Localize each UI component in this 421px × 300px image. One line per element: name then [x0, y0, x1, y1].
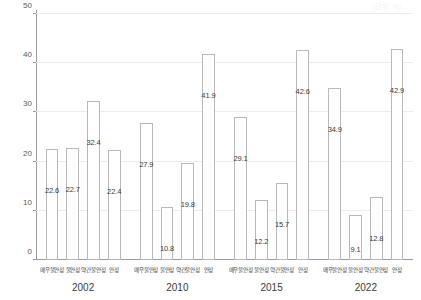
- bar: [87, 101, 100, 260]
- x-category-label: 매우불안정: [40, 266, 64, 274]
- x-category-label: 안정: [392, 266, 402, 274]
- bar-value-label: 34.9: [328, 125, 342, 134]
- unit-note: (단위: %): [373, 1, 401, 11]
- bars-layer: 22.622.732.422.427.910.819.841.929.112.2…: [36, 14, 413, 260]
- x-category-label: 불안정: [66, 266, 80, 274]
- y-axis-labels: 01020304050: [0, 14, 32, 260]
- x-category-label: 약간불안정: [364, 266, 388, 274]
- bar-value-label: 15.7: [275, 220, 289, 229]
- y-tick-label: 30: [6, 99, 32, 108]
- x-axis-category-labels: 매우불안정불안정약간불안정안정매우불안정불안정약간불안정안정매우불안정불안정약간…: [36, 266, 413, 278]
- bar-value-label: 41.9: [201, 91, 215, 100]
- bar-value-label: 22.7: [66, 185, 80, 194]
- x-group-label: 2022: [355, 282, 377, 293]
- x-category-label: 약간불안정: [270, 266, 294, 274]
- y-tick-label: 50: [6, 1, 32, 10]
- x-category-label: 안정: [109, 266, 119, 274]
- x-category-label: 안정: [204, 266, 214, 274]
- x-category-label: 불안정: [254, 266, 268, 274]
- bar-value-label: 27.9: [139, 160, 153, 169]
- bar: [46, 149, 59, 260]
- x-category-label: 매우불안정: [229, 266, 253, 274]
- bar-value-label: 12.2: [254, 237, 268, 246]
- bar: [328, 88, 341, 260]
- bar-chart: (단위: %) 01020304050 22.622.732.422.427.9…: [0, 0, 421, 300]
- y-tick-label: 10: [6, 197, 32, 206]
- y-tick-label: 20: [6, 148, 32, 157]
- bar-value-label: 32.4: [86, 138, 100, 147]
- bar: [391, 49, 404, 260]
- bar-value-label: 42.6: [296, 87, 310, 96]
- bar-value-label: 22.6: [45, 186, 59, 195]
- bar: [66, 148, 79, 260]
- x-category-label: 매우불안정: [323, 266, 347, 274]
- bar-value-label: 9.1: [350, 245, 360, 254]
- bar: [234, 117, 247, 260]
- bar: [370, 197, 383, 260]
- x-category-label: 약간불안정: [81, 266, 105, 274]
- x-category-label: 안정: [298, 266, 308, 274]
- bar-value-label: 42.9: [390, 86, 404, 95]
- bar-value-label: 29.1: [233, 154, 247, 163]
- x-category-label: 매우불안정: [134, 266, 158, 274]
- bar: [255, 200, 268, 260]
- x-category-label: 약간불안정: [176, 266, 200, 274]
- bar: [140, 123, 153, 260]
- bar: [296, 50, 309, 260]
- x-axis-group-labels: 2002201020152022: [36, 282, 413, 296]
- bar-value-label: 19.8: [181, 200, 195, 209]
- x-category-label: 불안정: [160, 266, 174, 274]
- bar: [202, 54, 215, 260]
- x-category-label: 불안정: [348, 266, 362, 274]
- x-group-label: 2015: [261, 282, 283, 293]
- y-tick-label: 0: [6, 247, 32, 256]
- bar-value-label: 10.8: [160, 244, 174, 253]
- bar: [108, 150, 121, 260]
- plot-area: 22.622.732.422.427.910.819.841.929.112.2…: [36, 14, 413, 260]
- bar-value-label: 12.8: [369, 234, 383, 243]
- bar: [181, 163, 194, 260]
- x-group-label: 2010: [166, 282, 188, 293]
- bar-value-label: 22.4: [107, 187, 121, 196]
- x-group-label: 2002: [72, 282, 94, 293]
- y-tick-label: 40: [6, 50, 32, 59]
